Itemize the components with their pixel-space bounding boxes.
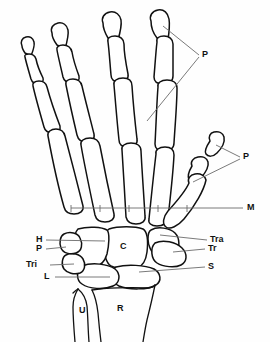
metacarpal-5: [48, 129, 83, 214]
radius-medial-edge: [92, 290, 101, 342]
label-ulna: U: [79, 306, 86, 315]
label-scaphoid: S: [208, 262, 214, 271]
little-middle-phalanx: [25, 54, 44, 84]
middle-middle-phalanx: [108, 36, 128, 82]
index-proximal-phalanx: [155, 80, 177, 151]
index-distal-phalanx: [150, 10, 169, 40]
metacarpal-4: [81, 138, 114, 222]
figure-canvas: P P M Tra Tr S C H P Tri L U R: [0, 0, 270, 342]
ulna-medial-edge: [78, 289, 89, 342]
label-triquetrum: Tri: [26, 260, 37, 269]
little-distal-phalanx: [21, 37, 34, 56]
ring-proximal-phalanx: [66, 79, 94, 142]
label-metacarpals: M: [247, 203, 255, 212]
middle-proximal-phalanx: [114, 78, 137, 147]
label-capitate: C: [120, 242, 127, 251]
index-finger-bones: [149, 10, 177, 226]
label-pisiform: P: [36, 244, 42, 253]
label-trapezoid: Tr: [208, 244, 217, 253]
index-middle-phalanx: [154, 36, 173, 84]
metacarpal-3: [122, 143, 145, 224]
ring-middle-phalanx: [57, 45, 79, 83]
label-lunate: L: [44, 272, 50, 281]
pisiform-bone: [60, 233, 82, 254]
little-proximal-phalanx: [33, 81, 60, 133]
radius-lateral-edge: [143, 285, 155, 342]
thumb-distal-phalanx: [205, 132, 224, 156]
label-phalanges-fingers: P: [202, 50, 208, 59]
trapezoid-bone: [152, 241, 186, 267]
label-phalanges-thumb: P: [243, 152, 249, 161]
hand-skeleton-diagram: [0, 0, 270, 342]
label-radius: R: [117, 304, 124, 313]
ulna-lateral-edge: [73, 289, 78, 342]
